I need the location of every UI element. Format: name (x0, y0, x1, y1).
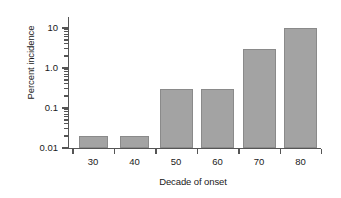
x-axis-tick (321, 149, 322, 154)
y-axis-minor-tick (64, 114, 69, 115)
y-axis-minor-tick (64, 55, 69, 56)
x-axis-tick (155, 149, 156, 154)
y-axis-minor-tick (64, 135, 69, 136)
y-axis-minor-tick (64, 69, 69, 70)
y-axis-minor-tick (64, 95, 69, 96)
y-axis-minor-tick (64, 111, 69, 112)
x-axis-tick (114, 149, 115, 154)
y-axis-minor-tick (64, 83, 69, 84)
y-axis-tick-label: 1.0 (0, 63, 58, 73)
y-axis-minor-tick (64, 43, 69, 44)
y-axis-minor-tick (64, 39, 69, 40)
y-axis-minor-tick (64, 74, 69, 75)
y-axis-minor-tick (64, 29, 69, 30)
y-axis-minor-tick (64, 34, 69, 35)
x-axis-tick (72, 149, 73, 154)
y-axis-minor-tick (64, 71, 69, 72)
bar (160, 89, 193, 148)
y-axis-tick-label: 10 (0, 23, 58, 33)
x-axis-tick (238, 149, 239, 154)
chart-figure: Percent incidence Decade of onset 101.00… (0, 0, 341, 198)
bar (201, 89, 234, 148)
bar (79, 136, 108, 148)
bar (243, 49, 276, 148)
x-axis-title: Decade of onset (68, 176, 318, 187)
bar (284, 28, 317, 148)
y-axis-minor-tick (64, 128, 69, 129)
x-axis-tick-label: 30 (73, 156, 113, 167)
y-axis-minor-tick (64, 119, 69, 120)
x-axis-tick-label: 40 (115, 156, 155, 167)
y-axis-minor-tick (64, 79, 69, 80)
x-axis-tick-label: 50 (156, 156, 196, 167)
y-axis-minor-tick (64, 31, 69, 32)
x-axis-tick-label: 60 (198, 156, 238, 167)
y-axis-minor-tick (64, 109, 69, 110)
x-axis-tick (280, 149, 281, 154)
y-axis-tick-label: 0.1 (0, 103, 58, 113)
y-axis-minor-tick (64, 116, 69, 117)
y-axis-minor-tick (64, 88, 69, 89)
y-axis-tick-label: 0.01 (0, 143, 58, 153)
bar (120, 136, 149, 148)
y-axis-minor-tick (64, 76, 69, 77)
y-axis-minor-tick (64, 36, 69, 37)
y-axis-minor-tick (64, 123, 69, 124)
x-axis-tick (197, 149, 198, 154)
y-axis-minor-tick (64, 48, 69, 49)
x-axis-tick-label: 80 (281, 156, 321, 167)
y-axis-major-tick (62, 147, 69, 148)
x-axis-tick-label: 70 (239, 156, 279, 167)
